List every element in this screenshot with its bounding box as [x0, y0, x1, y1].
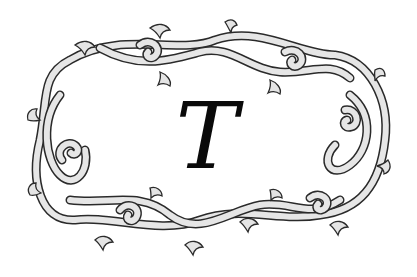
ornamental-frame	[0, 0, 417, 277]
scrollwork-frame-icon	[0, 0, 417, 277]
